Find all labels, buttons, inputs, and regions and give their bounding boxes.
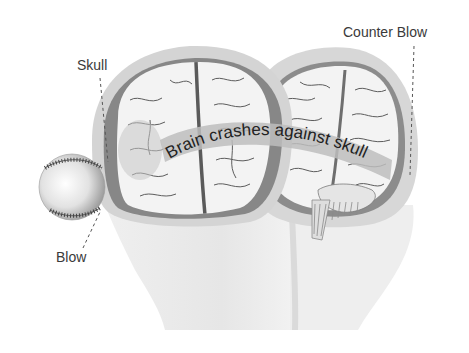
counter-blow-label: Counter Blow: [343, 25, 427, 39]
impact-contusion: [118, 120, 162, 180]
brain-injury-illustration: Brain crashes against skull: [0, 0, 469, 353]
diagram: Brain crashes against skull Skull Counte…: [0, 0, 469, 353]
skull-label: Skull: [77, 58, 107, 72]
baseball: [39, 154, 105, 220]
blow-label: Blow: [56, 250, 86, 264]
